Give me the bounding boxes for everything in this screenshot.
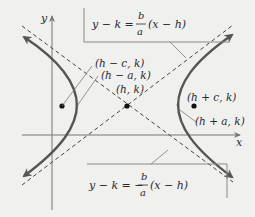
x-axis-label: x	[236, 136, 243, 149]
label-center: (h, k)	[116, 83, 144, 95]
leader-left-vertex	[77, 76, 98, 106]
label-left-vertex: (h − a, k)	[101, 69, 151, 81]
y-axis-label: y	[40, 12, 48, 25]
right-focus-point	[191, 103, 196, 108]
leader-right-vertex	[180, 110, 196, 122]
hyperbola-left-branch-lower	[24, 104, 77, 176]
lower-eq-rhs: (x − h)	[150, 179, 188, 192]
hyperbola-diagram: x y (h − c, k) (h − a, k) (h, k) (h + c,…	[0, 0, 255, 217]
leader-upper-equation	[170, 42, 186, 58]
label-left-focus: (h − c, k)	[95, 57, 144, 69]
upper-asymptote-equation-box: y − k = b a (x − h)	[84, 8, 230, 58]
lower-eq-lhs: y − k = −	[88, 179, 144, 192]
upper-eq-rhs: (x − h)	[148, 18, 186, 31]
label-right-focus: (h + c, k)	[187, 91, 236, 103]
lower-eq-denominator: a	[140, 187, 146, 198]
leader-lower-equation	[151, 150, 168, 164]
upper-eq-numerator: b	[138, 10, 144, 21]
lower-eq-numerator: b	[141, 171, 147, 182]
upper-eq-denominator: a	[137, 26, 143, 37]
label-right-vertex: (h + a, k)	[195, 115, 245, 127]
upper-eq-lhs: y − k =	[91, 18, 134, 31]
lower-asymptote-equation-box: y − k = − b a (x − h)	[87, 150, 227, 198]
center-point	[124, 103, 129, 108]
